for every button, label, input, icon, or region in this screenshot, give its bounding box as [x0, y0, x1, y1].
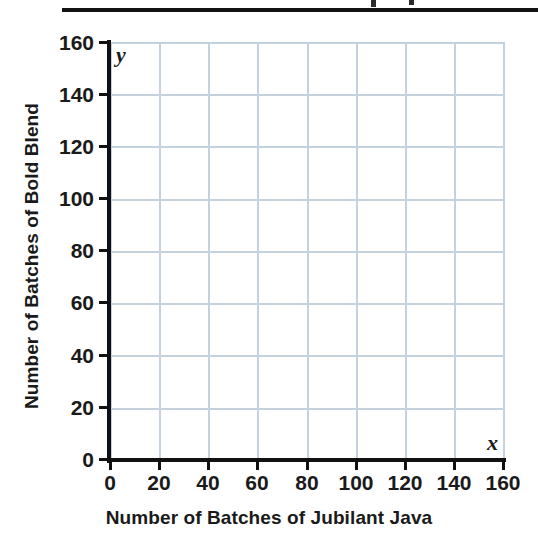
x-axis-tick — [502, 461, 505, 470]
x-axis-tick — [207, 461, 210, 470]
y-axis-tick — [99, 301, 108, 304]
y-tick-label: 60 — [71, 292, 94, 313]
y-axis-tick — [99, 41, 108, 44]
gridline-horizontal — [110, 251, 505, 253]
x-axis-tick — [158, 461, 161, 470]
gridline-horizontal — [110, 303, 505, 305]
gridline-horizontal — [110, 42, 505, 44]
y-axis-name-label: y — [116, 44, 126, 66]
gridline-horizontal — [110, 146, 505, 148]
x-tick-label: 160 — [485, 472, 520, 493]
gridline-horizontal — [110, 199, 505, 201]
x-tick-label: 120 — [387, 472, 422, 493]
x-tick-label: 0 — [104, 472, 116, 493]
x-axis-tick — [306, 461, 309, 470]
x-tick-label: 80 — [295, 472, 318, 493]
y-tick-label: 40 — [71, 345, 94, 366]
y-axis-tick — [99, 249, 108, 252]
gridline-horizontal — [110, 408, 505, 410]
x-tick-label: 100 — [338, 472, 373, 493]
y-tick-label: 120 — [59, 136, 94, 157]
y-axis-title: Number of Batches of Bold Blend — [21, 46, 43, 466]
y-tick-label: 140 — [59, 84, 94, 105]
gridline-horizontal — [110, 94, 505, 96]
x-axis-tick — [404, 461, 407, 470]
x-axis-name-label: x — [487, 432, 498, 454]
x-axis-tick — [256, 461, 259, 470]
y-axis-tick — [99, 93, 108, 96]
x-axis-tick — [109, 461, 112, 470]
plot-area[interactable] — [110, 42, 505, 460]
y-tick-label: 20 — [71, 397, 94, 418]
x-axis-title: Number of Batches of Jubilant Java — [0, 507, 538, 529]
y-axis-tick — [99, 354, 108, 357]
gridline-horizontal — [110, 355, 505, 357]
y-tick-label: 160 — [59, 32, 94, 53]
x-axis-tick — [355, 461, 358, 470]
x-axis-tick — [453, 461, 456, 470]
x-tick-label: 40 — [196, 472, 219, 493]
coordinate-grid-figure: 0 20 40 60 80 100 120 140 160 0 20 40 60… — [0, 0, 538, 551]
y-axis-tick — [99, 145, 108, 148]
x-tick-label: 60 — [245, 472, 268, 493]
y-axis-tick — [99, 458, 108, 461]
y-tick-label: 80 — [71, 240, 94, 261]
x-tick-label: 140 — [436, 472, 471, 493]
y-axis-tick — [99, 406, 108, 409]
x-tick-label: 20 — [147, 472, 170, 493]
y-tick-label: 0 — [82, 449, 94, 470]
y-axis-tick — [99, 197, 108, 200]
y-tick-label: 100 — [59, 188, 94, 209]
